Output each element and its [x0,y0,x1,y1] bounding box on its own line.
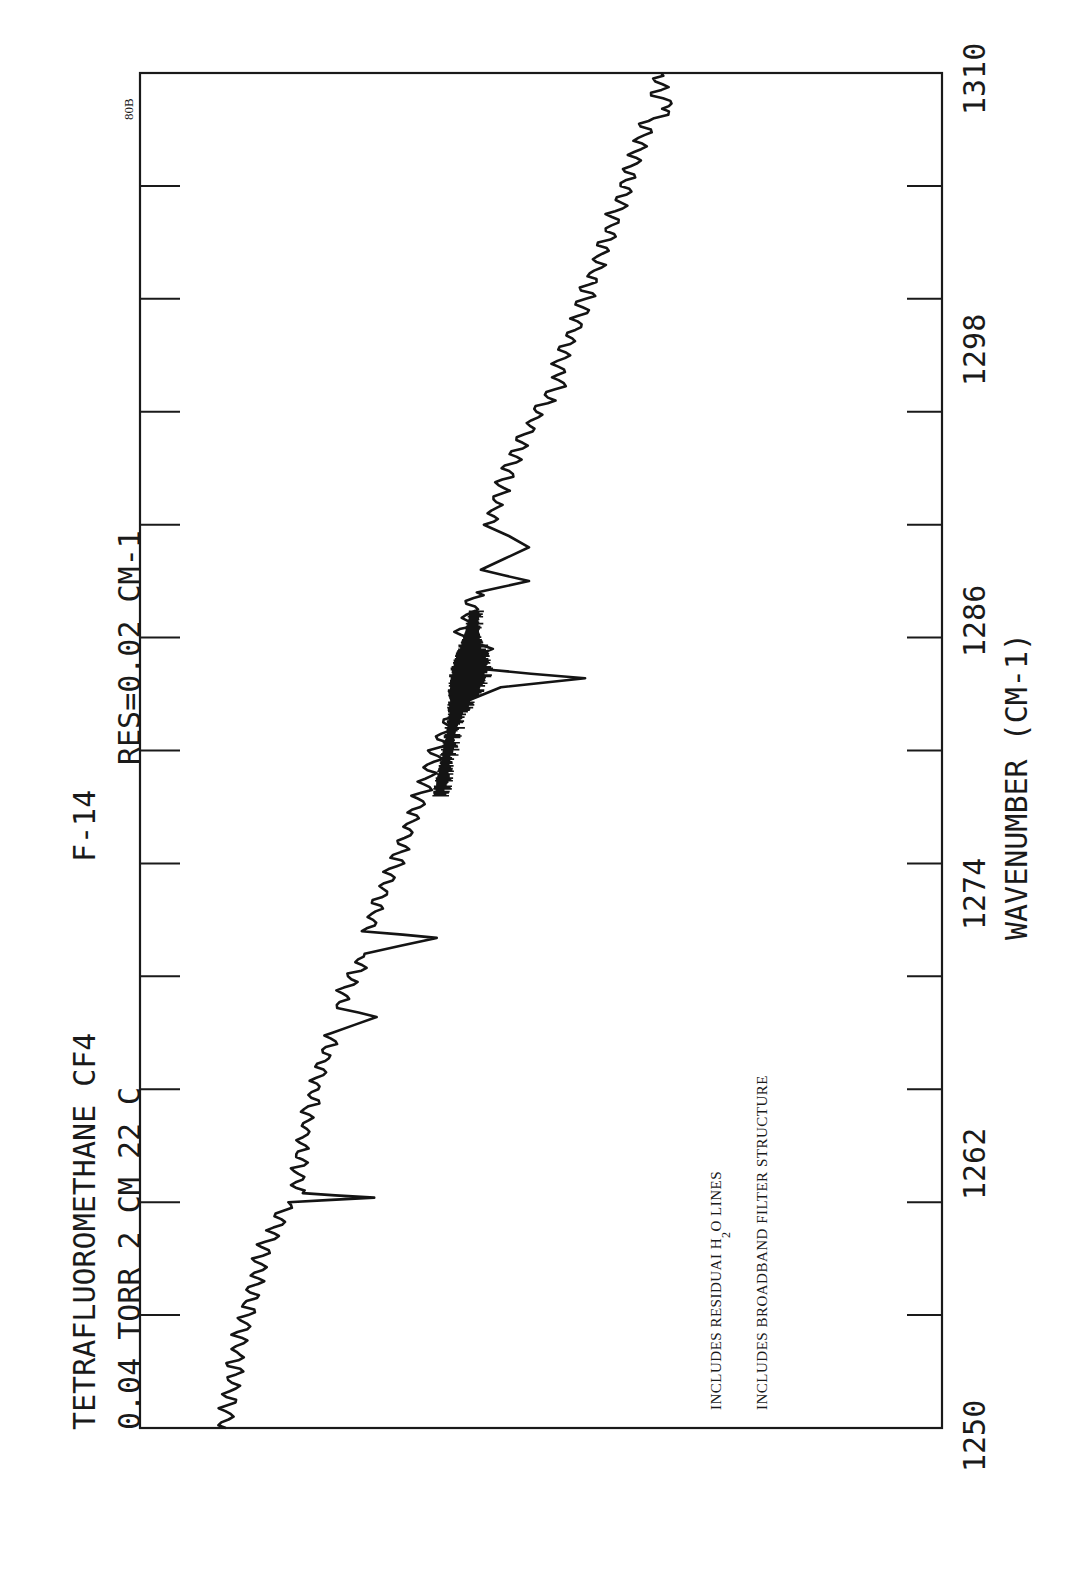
annotation-line-1: INCLUDES RESIDUAI H2O LINES [708,1171,733,1410]
resolution-label: RES=0.02 CM-1 [112,530,147,765]
title-line-1: TETRAFLUOROMETHANE CF4 [67,1033,102,1430]
tick-label-1286: 1286 [957,585,992,657]
plot-frame [140,73,942,1428]
annotation-line-2: INCLUDES BROADBAND FILTER STRUCTURE [754,1075,770,1410]
title-line-2: 0.04 TORR 2 CM 22 C [112,1087,147,1430]
annotation-line-1-post: O LINES [708,1171,724,1232]
spectrum-figure: TETRAFLUOROMETHANE CF4 F-14 0.04 TORR 2 … [0,0,1092,1581]
tick-label-1310: 1310 [957,43,992,115]
tick-label-1262: 1262 [957,1128,992,1200]
axis-ticks [140,186,942,1315]
annotation-line-1-pre: INCLUDES RESIDUAI H [708,1238,724,1410]
plate-id: 80B [121,98,136,120]
tick-label-1298: 1298 [957,314,992,386]
tick-label-1250: 1250 [957,1400,992,1472]
dense-band-fill [432,611,493,795]
tick-label-1274: 1274 [957,858,992,930]
title-compound-code: F-14 [67,790,102,862]
x-axis-title: WAVENUMBER (CM-1) [999,633,1034,940]
